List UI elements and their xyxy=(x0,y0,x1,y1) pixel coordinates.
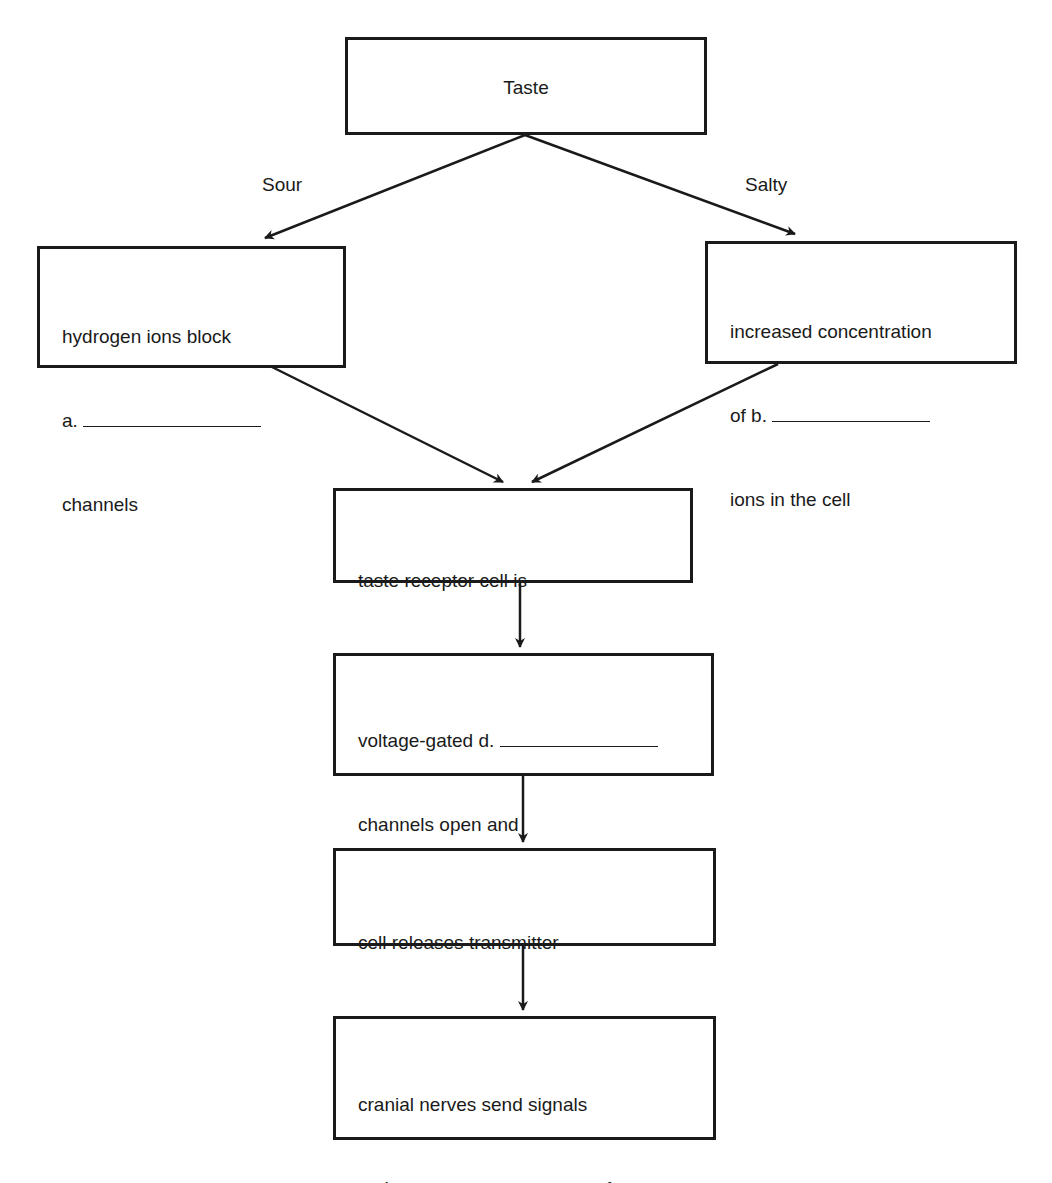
box-cranial: cranial nerves send signals to the e. of… xyxy=(333,1016,716,1140)
blank-b[interactable] xyxy=(772,403,930,422)
voltage-prefix-d1: voltage-gated d. xyxy=(358,730,494,751)
cranial-line1: cranial nerves send signals xyxy=(358,1091,611,1119)
sour-line3: channels xyxy=(62,491,261,519)
releases-line1: cell releases transmitter xyxy=(358,929,559,957)
blank-e[interactable] xyxy=(432,1176,590,1183)
blank-d1[interactable] xyxy=(500,728,658,747)
box-receptor: taste receptor cell is c. xyxy=(333,488,693,583)
taste-title: Taste xyxy=(348,74,704,102)
box-voltage: voltage-gated d. channels open and d. en… xyxy=(333,653,714,776)
box-sour: hydrogen ions block a. channels xyxy=(37,246,346,368)
blank-a[interactable] xyxy=(83,408,261,427)
sour-line1: hydrogen ions block xyxy=(62,323,261,351)
arrow-taste-to-sour xyxy=(265,135,525,238)
branch-label-salty: Salty xyxy=(745,174,787,196)
box-releases: cell releases transmitter xyxy=(333,848,716,946)
salty-line3: ions in the cell xyxy=(730,486,932,514)
sour-prefix-a: a. xyxy=(62,410,78,431)
cranial-prefix-e: to the e. xyxy=(358,1178,427,1183)
cranial-suffix: of xyxy=(595,1178,611,1183)
arrow-sour-to-receptor xyxy=(270,366,503,482)
salty-prefix-b: of b. xyxy=(730,405,767,426)
voltage-line2: channels open and xyxy=(358,811,661,839)
salty-line1: increased concentration xyxy=(730,318,932,346)
box-salty: increased concentration of b. ions in th… xyxy=(705,241,1017,364)
box-taste: Taste xyxy=(345,37,707,135)
receptor-line1: taste receptor cell is xyxy=(358,567,530,595)
branch-label-sour: Sour xyxy=(262,174,302,196)
